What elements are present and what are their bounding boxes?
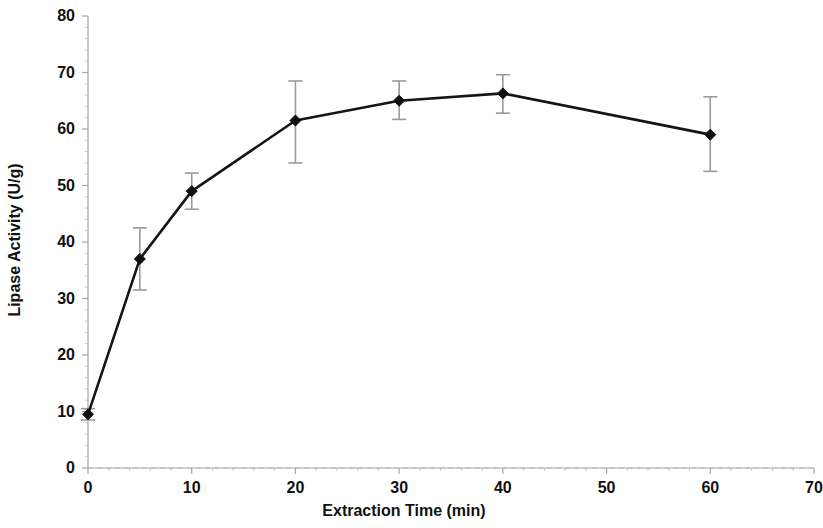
x-tick-label-20: 20 [287, 479, 305, 496]
y-axis-title: Lipase Activity (U/g) [6, 163, 23, 316]
x-tick-label-60: 60 [701, 479, 719, 496]
y-tick-label-20: 20 [57, 346, 75, 363]
y-tick-label-70: 70 [57, 64, 75, 81]
y-tick-label-50: 50 [57, 177, 75, 194]
x-tick-label-50: 50 [598, 479, 616, 496]
x-tick-label-30: 30 [390, 479, 408, 496]
y-axis-tick-labels: 01020304050607080 [57, 7, 75, 476]
y-tick-label-0: 0 [66, 459, 75, 476]
y-tick-label-30: 30 [57, 290, 75, 307]
x-tick-label-10: 10 [183, 479, 201, 496]
y-tick-label-40: 40 [57, 233, 75, 250]
chart-canvas: 01020304050607080 010203040506070 Extrac… [0, 0, 823, 528]
x-tick-label-40: 40 [494, 479, 512, 496]
y-tick-label-10: 10 [57, 403, 75, 420]
x-tick-label-0: 0 [84, 479, 93, 496]
plot-background [0, 0, 823, 528]
y-tick-label-60: 60 [57, 120, 75, 137]
x-tick-label-70: 70 [805, 479, 823, 496]
x-axis-title: Extraction Time (min) [322, 502, 485, 519]
y-tick-label-80: 80 [57, 7, 75, 24]
lipase-activity-line-chart: 01020304050607080 010203040506070 Extrac… [0, 0, 823, 528]
